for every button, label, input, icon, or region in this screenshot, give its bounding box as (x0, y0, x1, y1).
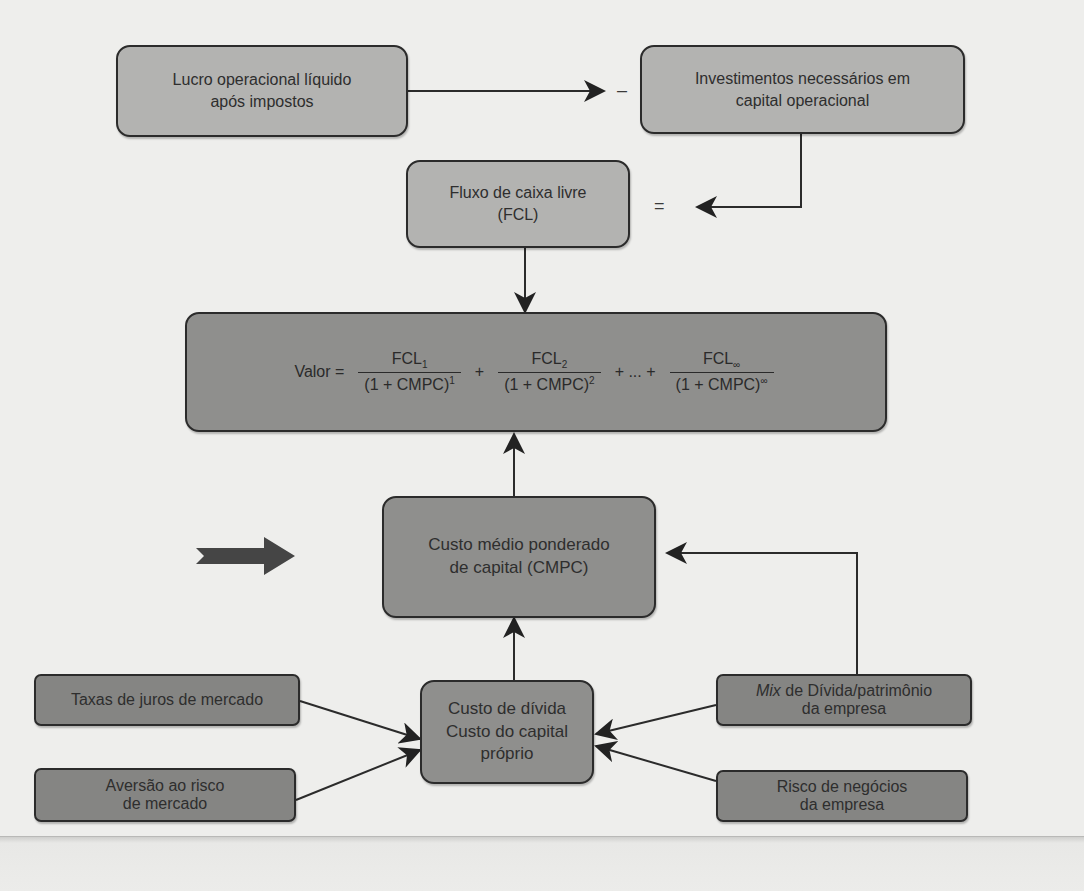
node-debt-mix-line1: Mix de Dívida/patrimônio (756, 682, 932, 700)
term3-den: (1 + CMPC) (676, 377, 761, 394)
formula-label: Valor = (294, 361, 344, 383)
term2-sup: 2 (589, 375, 595, 386)
term1-num: FCL (392, 350, 422, 367)
node-risk-aversion-line2: de mercado (106, 795, 225, 813)
formula-term-2: FCL2 (1 + CMPC)2 (498, 348, 600, 397)
ellipsis-operator: + ... + (615, 361, 656, 383)
formula-term-1: FCL1 (1 + CMPC)1 (358, 348, 460, 397)
equals-symbol: = (654, 196, 665, 217)
arrow-debtmix-to-costs (596, 705, 716, 734)
node-costs-line1: Custo de dívida (446, 698, 568, 721)
node-investments-line2: capital operacional (695, 90, 910, 112)
term2-den: (1 + CMPC) (504, 377, 589, 394)
node-risk-aversion: Aversão ao risco de mercado (34, 768, 296, 822)
node-nopat-line1: Lucro operacional líquido (173, 69, 352, 91)
node-interest-rates: Taxas de juros de mercado (34, 674, 300, 726)
node-fcf-line1: Fluxo de caixa livre (450, 182, 587, 204)
term1-sub: 1 (422, 359, 428, 370)
plus-operator: + (475, 361, 484, 383)
arrow-interest-to-costs (300, 701, 420, 739)
node-business-risk-line1: Risco de negócios (777, 778, 908, 796)
value-formula: Valor = FCL1 (1 + CMPC)1 + FCL2 (1 + CMP… (294, 348, 777, 397)
arrow-aversion-to-costs (296, 750, 420, 800)
node-business-risk: Risco de negócios da empresa (716, 770, 968, 822)
node-interest-rates-line1: Taxas de juros de mercado (71, 689, 263, 711)
node-debt-mix-line2: da empresa (756, 700, 932, 718)
term2-sub: 2 (562, 359, 568, 370)
node-nopat-line2: após impostos (173, 91, 352, 113)
node-costs: Custo de dívida Custo do capital próprio (420, 680, 594, 784)
term1-den: (1 + CMPC) (364, 377, 449, 394)
node-costs-line3: próprio (446, 743, 568, 766)
arrow-risk-to-costs (596, 746, 716, 781)
node-risk-aversion-line1: Aversão ao risco (106, 777, 225, 795)
term3-sub: ∞ (733, 359, 740, 370)
term3-sup: ∞ (760, 375, 767, 386)
mix-italic-word: Mix (756, 682, 781, 699)
page-bottom-edge (0, 836, 1084, 891)
node-debt-mix: Mix de Dívida/patrimônio da empresa (716, 674, 972, 726)
node-wacc-line1: Custo médio ponderado (428, 534, 609, 557)
term2-num: FCL (531, 350, 561, 367)
term3-num: FCL (703, 350, 733, 367)
node-investments: Investimentos necessários em capital ope… (640, 45, 965, 134)
node-costs-line2: Custo do capital (446, 721, 568, 744)
thick-pointer-arrow-icon (196, 537, 295, 575)
minus-symbol: – (617, 80, 627, 101)
node-fcf: Fluxo de caixa livre (FCL) (406, 160, 630, 248)
node-investments-line1: Investimentos necessários em (695, 68, 910, 90)
term1-sup: 1 (449, 375, 455, 386)
node-business-risk-line2: da empresa (777, 796, 908, 814)
node-nopat: Lucro operacional líquido após impostos (116, 45, 408, 137)
arrow-investments-to-fcf (697, 133, 801, 207)
node-wacc-line2: de capital (CMPC) (428, 557, 609, 580)
node-value-formula: Valor = FCL1 (1 + CMPC)1 + FCL2 (1 + CMP… (185, 312, 887, 432)
formula-term-infinity: FCL∞ (1 + CMPC)∞ (670, 348, 774, 397)
node-fcf-line2: (FCL) (450, 204, 587, 226)
node-wacc: Custo médio ponderado de capital (CMPC) (382, 496, 656, 618)
mix-rest: de Dívida/patrimônio (781, 682, 932, 699)
arrow-debtmix-to-wacc (667, 553, 857, 676)
